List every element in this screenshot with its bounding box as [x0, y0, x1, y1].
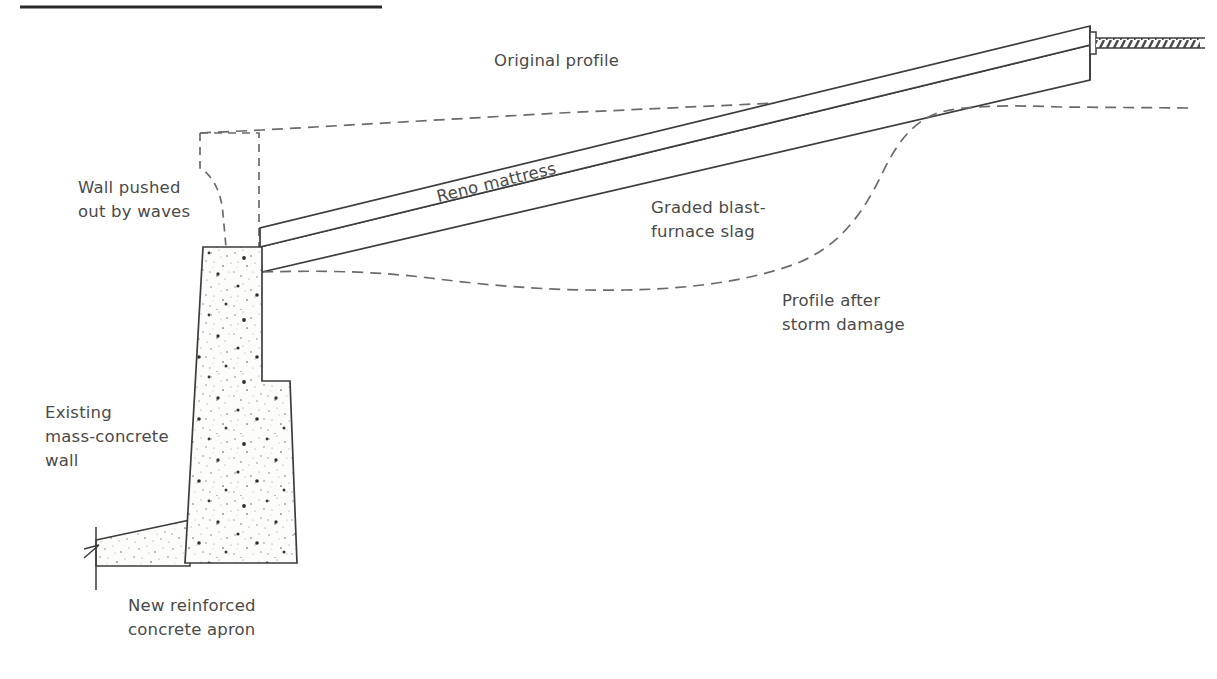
label-graded-blast-furnace-slag: Graded blast- furnace slag — [651, 196, 766, 244]
label-profile-after-storm-damage: Profile after storm damage — [782, 289, 905, 337]
figure-root: Original profile Wall pushed out by wave… — [0, 0, 1217, 679]
mass-concrete-wall-body — [185, 247, 297, 563]
original-wall-dashed-outline — [200, 133, 259, 247]
label-new-reinforced-concrete-apron: New reinforced concrete apron — [128, 594, 256, 642]
crest-ground-hatched-band — [1090, 32, 1205, 54]
diagram-canvas — [0, 0, 1217, 679]
label-original-profile: Original profile — [494, 49, 619, 73]
reinforced-concrete-apron — [96, 520, 190, 566]
label-wall-pushed-out-by-waves: Wall pushed out by waves — [78, 176, 190, 224]
label-existing-mass-concrete-wall: Existing mass-concrete wall — [45, 401, 169, 473]
apron-break-line — [84, 527, 99, 590]
